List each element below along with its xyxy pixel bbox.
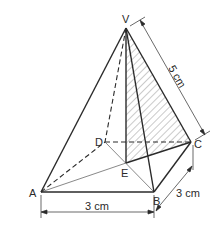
label-d: D (95, 136, 103, 148)
arrow-icon (148, 210, 154, 214)
dim-bc-label: 3 cm (176, 187, 200, 199)
pyramid-diagram: V A B C D E 3 cm 3 cm 5 cm (0, 0, 221, 229)
arrow-icon (41, 210, 47, 214)
label-e: E (121, 167, 128, 179)
edge-vd-hidden (105, 28, 126, 142)
arrow-icon (200, 129, 205, 135)
shaded-triangle-vec (126, 28, 191, 163)
arrow-icon (187, 166, 192, 172)
arrow-icon (140, 20, 145, 26)
dim-vc-label: 5 cm (166, 63, 188, 90)
edge-ad-hidden (41, 142, 105, 192)
label-c: C (194, 138, 202, 150)
label-a: A (29, 187, 37, 199)
label-b: B (153, 195, 160, 207)
dim-ab-label: 3 cm (85, 200, 109, 212)
label-v: V (122, 13, 130, 25)
